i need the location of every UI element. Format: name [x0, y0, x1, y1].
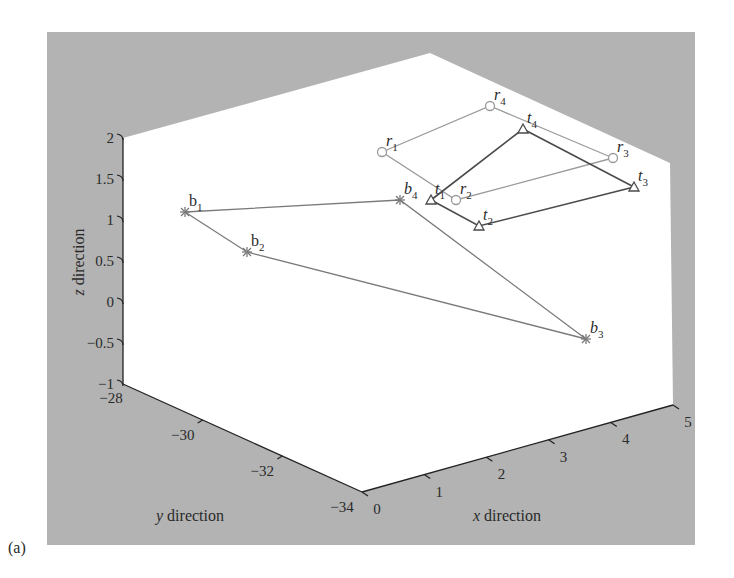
z-axis-title: z direction [70, 228, 87, 296]
z-tick-label: 0 [107, 294, 115, 310]
z-tick-label: 1 [107, 212, 115, 228]
x-tick-label: 0 [373, 501, 381, 517]
y-tick-label: −34 [330, 499, 354, 515]
z-tick-label: −0.5 [87, 335, 114, 351]
z-tick-label: 1.5 [95, 171, 114, 187]
panel-label: (a) [8, 539, 26, 557]
x-tick-label: 1 [435, 484, 443, 500]
y-tick-label: −32 [251, 463, 274, 479]
x-tick-label: 3 [560, 449, 568, 465]
y-tick-label: −28 [99, 390, 122, 406]
x-axis-title: x direction [472, 507, 541, 524]
y-tick-label: −30 [171, 427, 194, 443]
z-tick-label: 0.5 [95, 253, 114, 269]
y-axis-title: y direction [154, 507, 224, 525]
x-tick-label: 4 [622, 431, 630, 447]
z-tick-label: 2 [107, 130, 115, 146]
figure-3d-plot: 21.510.50−0.5−1 −28−30−32−34 012345 z di… [0, 0, 734, 578]
x-tick-label: 5 [684, 414, 692, 430]
x-tick-label: 2 [498, 466, 506, 482]
